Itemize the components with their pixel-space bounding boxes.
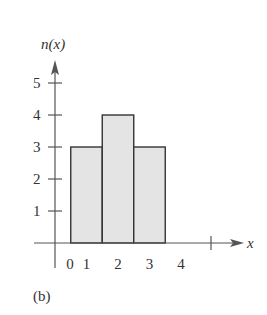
x-tick-label-4: 4 <box>177 256 185 272</box>
y-tick-label-1: 1 <box>33 203 41 219</box>
x-tick-label-2: 2 <box>114 256 122 272</box>
x-tick-labels: 01234 <box>66 256 185 272</box>
x-tick-label-0: 0 <box>66 256 74 272</box>
y-tick-label-3: 3 <box>33 139 41 155</box>
bars <box>71 115 166 243</box>
x-tick-label-3: 3 <box>146 256 154 272</box>
y-tick-label-2: 2 <box>33 171 41 187</box>
figure-caption: (b) <box>33 288 51 305</box>
x-axis-label: x <box>246 235 254 251</box>
x-tick-label-1: 1 <box>83 256 91 272</box>
bar-2 <box>102 115 134 243</box>
y-tick-label-5: 5 <box>33 75 41 91</box>
histogram-chart: 12345 n(x) x 01234 (b) <box>0 0 267 315</box>
y-ticks: 12345 <box>33 75 62 219</box>
y-axis-label: n(x) <box>41 36 65 53</box>
bar-1 <box>71 147 103 243</box>
bar-3 <box>134 147 166 243</box>
y-tick-label-4: 4 <box>33 107 41 123</box>
